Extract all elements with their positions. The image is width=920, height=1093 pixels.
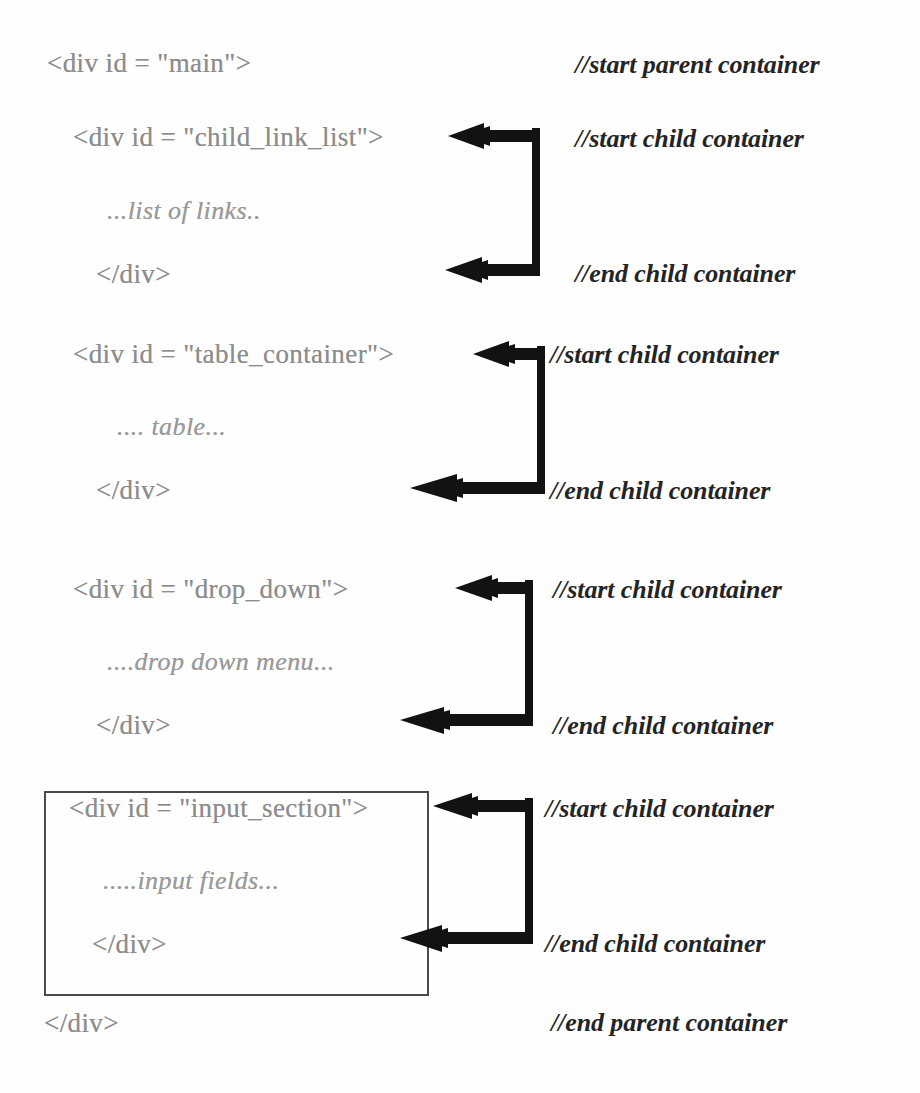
comment-block-1-start: //start child container [550,340,779,370]
code-line-block-0-body: ...list of links.. [107,196,261,226]
bracket-arrow-block-1 [405,338,555,503]
comment-block-0-end: //end child container [575,259,795,289]
code-line-block-3-open: <div id = "input_section"> [69,793,368,824]
comment-parent-close: //end parent container [551,1008,787,1038]
comment-block-2-start: //start child container [553,575,782,605]
code-line-block-2-open: <div id = "drop_down"> [73,574,348,605]
code-line-block-2-body: ....drop down menu... [107,647,335,677]
comment-block-2-end: //end child container [553,711,773,741]
code-line-block-1-body: .... table... [117,412,226,442]
comment-block-3-end: //end child container [545,929,765,959]
code-line-block-0-open: <div id = "child_link_list"> [73,122,384,153]
bracket-arrow-block-2 [400,574,540,736]
bracket-arrow-block-0 [440,120,550,285]
code-line-block-1-open: <div id = "table_container"> [73,339,394,370]
code-line-block-2-close: </div> [96,710,171,741]
bracket-arrow-block-3 [400,792,540,954]
code-line-block-1-close: </div> [96,475,171,506]
code-line-parent-close: </div> [44,1008,119,1039]
comment-block-3-start: //start child container [545,794,774,824]
code-line-parent-open: <div id = "main"> [47,48,251,79]
code-line-block-3-body: .....input fields... [103,866,279,896]
diagram-canvas: <div id = "main"> //start parent contain… [0,0,920,1093]
code-line-block-0-close: </div> [96,259,171,290]
comment-parent-open: //start parent container [575,50,820,80]
code-line-block-3-close: </div> [92,929,167,960]
comment-block-1-end: //end child container [550,476,770,506]
comment-block-0-start: //start child container [575,124,804,154]
